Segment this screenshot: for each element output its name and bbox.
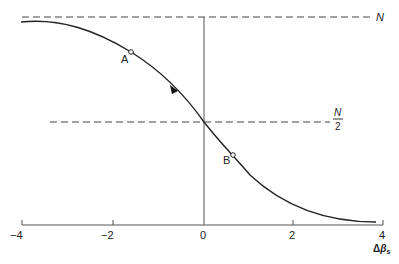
point-b-label: B — [223, 154, 230, 166]
n-half-numerator: N — [334, 107, 342, 118]
tick-label-0: 0 — [200, 229, 206, 241]
x-axis-ticks — [22, 220, 383, 225]
point-a-label: A — [121, 53, 129, 65]
tick-label-minus-2: −2 — [101, 229, 114, 241]
tick-label-minus-4: −4 — [10, 229, 23, 241]
tick-label-4: 4 — [379, 229, 385, 241]
point-a-marker — [129, 50, 134, 55]
tick-label-2: 2 — [289, 229, 295, 241]
point-b-marker — [231, 153, 236, 158]
chart: A B N N 2 −4 −2 0 2 4 Δβs — [0, 0, 399, 264]
n-half-denominator: 2 — [335, 121, 341, 132]
n-label: N — [376, 11, 384, 23]
x-axis-label: Δβs — [373, 243, 390, 255]
